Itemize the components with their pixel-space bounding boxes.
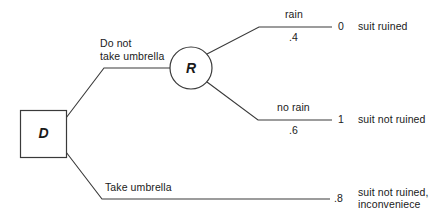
chance-node-r-label: R [170,60,212,76]
outcome-no-rain: suit not ruined [358,113,425,126]
outcome-rain: suit ruined [358,20,408,33]
branch-label-do-not-take-umbrella-line2: take umbrella [100,50,164,63]
outcome-take-umbrella-line1: suit not ruined, [358,186,428,199]
branch-label-do-not-take-umbrella-line1: Do not [100,37,132,50]
outcome-take-umbrella-line2: inconveniece [358,198,421,211]
decision-tree-diagram: D R Do not take umbrella Take umbrella r… [0,0,442,224]
edge-do-not-take-umbrella [66,68,170,118]
payoff-no-rain: 1 [338,113,344,126]
probability-rain: .4 [289,31,298,44]
edge-no-rain [207,82,332,120]
payoff-take-umbrella: .8 [334,192,343,205]
payoff-rain: 0 [338,20,344,33]
branch-label-take-umbrella: Take umbrella [105,181,172,194]
edge-rain [207,27,332,54]
branch-label-no-rain: no rain [277,101,310,114]
decision-node-d-label: D [20,125,67,141]
branch-label-rain: rain [285,8,303,21]
probability-no-rain: .6 [289,124,298,137]
